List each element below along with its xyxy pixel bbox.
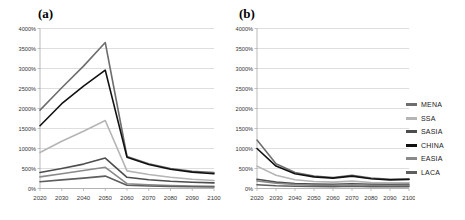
y-axis-tick-label: 2000%: [19, 106, 36, 112]
legend-item-label: SSA: [421, 115, 436, 122]
legend-swatch-icon: [406, 157, 417, 160]
legend-item-sasia[interactable]: SASIA: [406, 125, 465, 139]
x-axis-tick-label: 2080: [364, 195, 378, 201]
x-axis-tick-label: 2050: [99, 195, 113, 201]
panel-b-plot: 0%500%1000%1500%2000%2500%3000%3500%4000…: [215, 0, 415, 220]
x-axis-tick-label: 2030: [269, 195, 283, 201]
x-axis-tick-label: 2020: [250, 195, 264, 201]
legend-item-china[interactable]: CHINA: [406, 139, 465, 153]
x-axis-tick-label: 2070: [142, 195, 156, 201]
y-axis-tick-label: 3000%: [236, 66, 253, 72]
y-axis-tick-label: 0%: [245, 186, 253, 192]
legend-item-ssa[interactable]: SSA: [406, 112, 465, 126]
legend-swatch-icon: [406, 117, 417, 120]
x-axis-tick-label: 2040: [77, 195, 91, 201]
legend-item-label: LACA: [421, 169, 440, 176]
series-line-mena: [257, 140, 409, 179]
chart-legend: MENASSASASIACHINAEASIALACA: [406, 98, 465, 179]
legend-item-label: EASIA: [421, 155, 443, 162]
y-axis-tick-label: 4000%: [19, 26, 36, 32]
x-axis-tick-label: 2100: [402, 195, 415, 201]
x-axis-tick-label: 2020: [33, 195, 47, 201]
x-axis-tick-label: 2050: [307, 195, 321, 201]
chart-panel-b: (b) 0%500%1000%1500%2000%2500%3000%3500%…: [215, 0, 415, 220]
y-axis-tick-label: 500%: [22, 166, 36, 172]
legend-swatch-icon: [406, 103, 417, 106]
legend-item-label: CHINA: [421, 142, 444, 149]
legend-swatch-icon: [406, 171, 417, 174]
x-axis-tick-label: 2060: [120, 195, 134, 201]
legend-item-mena[interactable]: MENA: [406, 98, 465, 112]
series-line-china: [257, 149, 409, 180]
legend-swatch-icon: [406, 144, 417, 147]
legend-item-label: MENA: [421, 101, 442, 108]
x-axis-tick-label: 2070: [345, 195, 359, 201]
y-axis-tick-label: 2500%: [236, 86, 253, 92]
y-axis-tick-label: 2500%: [19, 86, 36, 92]
y-axis-tick-label: 1000%: [19, 146, 36, 152]
legend-item-easia[interactable]: EASIA: [406, 152, 465, 166]
x-axis-tick-label: 2080: [164, 195, 178, 201]
chart-panel-a: (a) 0%500%1000%1500%2000%2500%3000%3500%…: [0, 0, 222, 220]
y-axis-tick-label: 1500%: [236, 126, 253, 132]
y-axis-tick-label: 1000%: [236, 146, 253, 152]
y-axis-tick-label: 3500%: [19, 46, 36, 52]
x-axis-tick-label: 2090: [383, 195, 397, 201]
series-line-mena: [40, 43, 214, 173]
y-axis-tick-label: 0%: [28, 186, 36, 192]
series-line-china: [40, 70, 214, 174]
legend-swatch-icon: [406, 130, 417, 133]
y-axis-tick-label: 500%: [239, 166, 253, 172]
y-axis-tick-label: 1500%: [19, 126, 36, 132]
panel-a-plot: 0%500%1000%1500%2000%2500%3000%3500%4000…: [0, 0, 222, 220]
x-axis-tick-label: 2030: [55, 195, 69, 201]
x-axis-tick-label: 2060: [326, 195, 340, 201]
y-axis-tick-label: 2000%: [236, 106, 253, 112]
y-axis-tick-label: 3500%: [236, 46, 253, 52]
y-axis-tick-label: 3000%: [19, 66, 36, 72]
legend-item-label: SASIA: [421, 128, 443, 135]
x-axis-tick-label: 2090: [186, 195, 200, 201]
y-axis-tick-label: 4000%: [236, 26, 253, 32]
figure-container: (a) 0%500%1000%1500%2000%2500%3000%3500%…: [0, 0, 465, 220]
x-axis-tick-label: 2040: [288, 195, 302, 201]
legend-item-laca[interactable]: LACA: [406, 166, 465, 180]
